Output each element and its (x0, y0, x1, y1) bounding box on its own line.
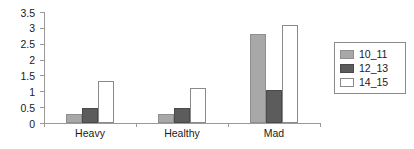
y-axis-tick-label: 2 (29, 55, 35, 66)
bar-heavy-14_15 (98, 81, 114, 123)
y-axis-tick-label: 2.5 (20, 39, 35, 50)
y-axis-tick: 3.5 (40, 12, 44, 13)
bar-healthy-12_13 (174, 108, 190, 123)
x-axis-tick (44, 123, 45, 127)
legend-item-12_13[interactable]: 12_13 (340, 61, 400, 75)
category-label-healthy: Healthy (164, 128, 200, 139)
y-axis-tick: 0.5 (40, 107, 44, 108)
bar-mad-10_11 (250, 34, 266, 123)
bar-chart: 00.511.522.533.5 HeavyHealthyMad 10_1112… (0, 0, 414, 149)
legend-label: 12_13 (359, 63, 388, 74)
y-axis-tick: 2 (40, 60, 44, 61)
y-axis-tick: 3 (40, 28, 44, 29)
bar-heavy-12_13 (82, 108, 98, 123)
y-axis-tick-label: 0.5 (20, 102, 35, 113)
legend-label: 10_11 (359, 49, 387, 60)
legend-swatch-icon (340, 64, 354, 73)
legend-item-14_15[interactable]: 14_15 (340, 75, 400, 89)
bar-heavy-10_11 (66, 114, 82, 123)
chart-legend: 10_1112_1314_15 (334, 42, 406, 94)
x-axis-tick (228, 123, 229, 127)
y-axis-line (44, 12, 45, 123)
x-axis-tick (136, 123, 137, 127)
legend-item-10_11[interactable]: 10_11 (340, 47, 400, 61)
y-axis-tick-label: 3.5 (20, 7, 35, 18)
bar-mad-14_15 (282, 25, 298, 123)
category-label-mad: Mad (264, 128, 284, 139)
legend-swatch-icon (340, 50, 354, 59)
legend-swatch-icon (340, 78, 354, 87)
bar-group (250, 12, 298, 123)
x-axis-line (44, 123, 320, 124)
bar-healthy-14_15 (190, 88, 206, 123)
legend-label: 14_15 (359, 77, 388, 88)
y-axis-tick: 2.5 (40, 44, 44, 45)
y-axis-tick-label: 1.5 (20, 71, 35, 82)
y-axis-tick-label: 1 (29, 87, 35, 98)
y-axis-tick: 1 (40, 91, 44, 92)
bar-healthy-10_11 (158, 114, 174, 123)
bar-group (158, 12, 206, 123)
y-axis-tick-label: 3 (29, 23, 35, 34)
plot-area: 00.511.522.533.5 (44, 12, 320, 123)
bar-group (66, 12, 114, 123)
y-axis-tick: 1.5 (40, 75, 44, 76)
y-axis-tick-label: 0 (29, 118, 35, 129)
bar-mad-12_13 (266, 90, 282, 123)
x-axis-tick (320, 123, 321, 127)
category-label-heavy: Heavy (75, 128, 105, 139)
